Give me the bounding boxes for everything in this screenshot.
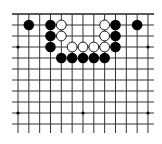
black-stone[interactable] <box>110 20 121 31</box>
white-stone[interactable] <box>56 20 66 30</box>
black-stone[interactable] <box>45 31 56 42</box>
black-stone[interactable] <box>110 42 121 53</box>
black-stone[interactable] <box>132 20 143 31</box>
white-stone[interactable] <box>100 42 110 52</box>
white-stone[interactable] <box>100 20 110 30</box>
star-point-icon <box>16 45 19 48</box>
star-point-icon <box>146 45 149 48</box>
white-stone[interactable] <box>100 31 110 41</box>
black-stone[interactable] <box>78 53 89 64</box>
black-stone[interactable] <box>24 20 35 31</box>
go-board-canvas[interactable] <box>0 0 162 144</box>
black-stone[interactable] <box>99 53 110 64</box>
white-stone[interactable] <box>67 42 77 52</box>
white-stone[interactable] <box>56 31 66 41</box>
go-board[interactable] <box>0 0 162 144</box>
star-point-icon <box>146 111 149 114</box>
star-point-icon <box>81 111 84 114</box>
black-stone[interactable] <box>56 53 67 64</box>
white-stone[interactable] <box>78 42 88 52</box>
black-stone[interactable] <box>45 20 56 31</box>
black-stone[interactable] <box>67 53 78 64</box>
white-stone[interactable] <box>89 42 99 52</box>
board-grid <box>12 14 154 133</box>
star-point-icon <box>16 111 19 114</box>
black-stone[interactable] <box>110 31 121 42</box>
black-stone[interactable] <box>45 42 56 53</box>
black-stone[interactable] <box>89 53 100 64</box>
